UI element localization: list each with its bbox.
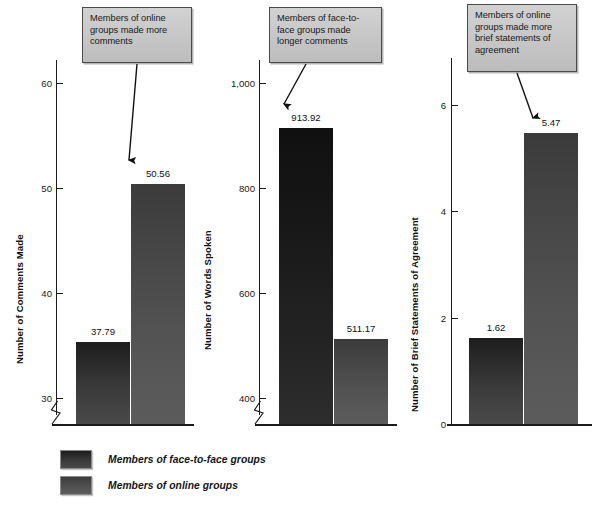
legend-item-face-to-face: Members of face-to-face groups bbox=[60, 449, 266, 470]
y-tick-800 bbox=[260, 188, 266, 189]
bar-online-comments bbox=[131, 184, 185, 424]
y-tick-4 bbox=[452, 211, 458, 212]
bar-online-agreement bbox=[524, 133, 578, 424]
y-ticklabel-1000: 1,000 bbox=[210, 78, 255, 89]
y-tick-600 bbox=[260, 293, 266, 294]
y-ticklabel-4: 4 bbox=[420, 206, 446, 217]
y-ticklabel-60: 60 bbox=[22, 78, 52, 89]
legend-item-online: Members of online groups bbox=[60, 475, 238, 496]
y-ticklabel-6: 6 bbox=[420, 100, 446, 111]
legend-label-face-to-face: Members of face-to-face groups bbox=[108, 454, 266, 465]
y-axis-words bbox=[259, 60, 260, 415]
y-ticklabel-600: 600 bbox=[210, 288, 255, 299]
y-ticklabel-400: 400 bbox=[210, 393, 255, 404]
y-axis-agreement bbox=[451, 58, 452, 425]
legend-swatch-online bbox=[60, 476, 92, 495]
x-axis-agreement bbox=[447, 424, 592, 426]
y-ticklabel-2: 2 bbox=[420, 313, 446, 324]
y-tick-50 bbox=[57, 188, 63, 189]
y-axis-label-agreement: Number of Brief Statements of Agreement bbox=[409, 217, 420, 412]
panel-words: Members of face-to-face groups made long… bbox=[196, 0, 394, 440]
x-axis-words bbox=[255, 424, 397, 426]
bar-face-to-face-words bbox=[279, 128, 333, 424]
bar-value-online-agreement: 5.47 bbox=[519, 117, 583, 128]
axis-break-comments bbox=[48, 400, 64, 426]
panel-agreement: Members of online groups made more brief… bbox=[392, 0, 590, 440]
legend-swatch-face-to-face bbox=[60, 450, 92, 469]
legend: Members of face-to-face groups Members o… bbox=[60, 449, 460, 507]
y-tick-1000 bbox=[260, 83, 266, 84]
bar-face-to-face-agreement bbox=[469, 338, 523, 424]
y-axis-comments bbox=[56, 60, 57, 415]
y-ticklabel-50: 50 bbox=[22, 183, 52, 194]
y-tick-40 bbox=[57, 293, 63, 294]
legend-label-online: Members of online groups bbox=[108, 480, 238, 491]
y-tick-60 bbox=[57, 83, 63, 84]
y-ticklabel-800: 800 bbox=[210, 183, 255, 194]
x-axis-comments bbox=[52, 424, 194, 426]
bar-face-to-face-comments bbox=[76, 342, 130, 424]
y-ticklabel-40: 40 bbox=[22, 288, 52, 299]
bar-value-face-to-face-agreement: 1.62 bbox=[464, 322, 528, 333]
bar-value-face-to-face-comments: 37.79 bbox=[71, 326, 135, 337]
bar-value-online-words: 511.17 bbox=[327, 323, 395, 334]
panel-comments: Members of online groups made more comme… bbox=[0, 0, 198, 440]
y-axis-label-comments: Number of Comments Made bbox=[14, 234, 25, 364]
figure-three-panel-bar-charts: Members of online groups made more comme… bbox=[0, 0, 594, 516]
y-ticklabel-0: 0 bbox=[420, 419, 446, 430]
bar-value-face-to-face-words: 913.92 bbox=[272, 112, 340, 123]
y-axis-label-words: Number of Words Spoken bbox=[202, 230, 213, 350]
bar-value-online-comments: 50.56 bbox=[126, 168, 190, 179]
axis-break-words bbox=[251, 400, 267, 426]
y-tick-6 bbox=[452, 105, 458, 106]
bar-online-words bbox=[334, 339, 388, 424]
y-tick-2 bbox=[452, 318, 458, 319]
